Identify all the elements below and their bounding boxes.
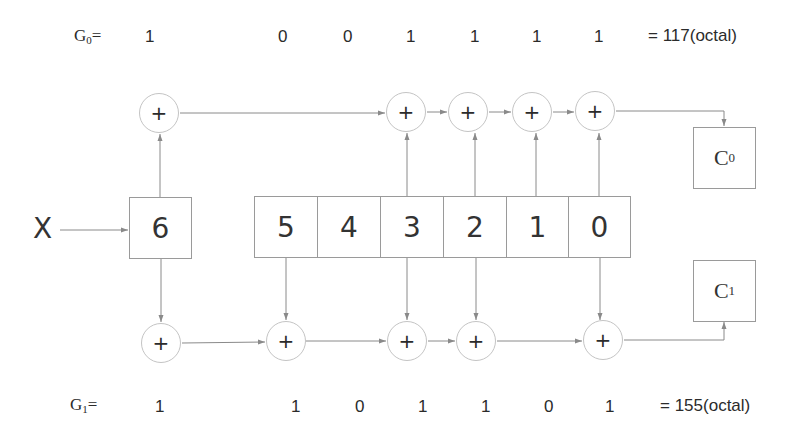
g0-bit: 1 — [406, 28, 415, 45]
xor-adder-top: + — [575, 91, 615, 131]
g1-bit: 0 — [355, 398, 364, 415]
g1-bit: 1 — [291, 398, 300, 415]
output-c0-box: C0 — [693, 127, 756, 189]
g1-octal-value: = 155(octal) — [660, 397, 750, 414]
current-input-stage: 6 — [129, 197, 192, 259]
g0-label: G0= — [74, 27, 101, 46]
xor-adder-top: + — [512, 92, 552, 132]
xor-adder-bottom: + — [141, 323, 181, 363]
g1-bit: 1 — [155, 398, 164, 415]
register-cell-3: 3 — [380, 196, 444, 258]
register-cell-2: 2 — [443, 196, 507, 258]
g1-bit: 0 — [544, 398, 553, 415]
register-cell-1: 1 — [506, 196, 569, 258]
xor-adder-bottom: + — [266, 321, 306, 361]
xor-adder-bottom: + — [387, 321, 427, 361]
register-cell-5: 5 — [254, 196, 318, 258]
register-cell-0: 0 — [568, 196, 631, 258]
g1-equals: = — [88, 395, 98, 414]
g1-label: G1= — [70, 396, 97, 415]
g0-octal-value: = 117(octal) — [648, 27, 737, 44]
register-cell-4: 4 — [317, 196, 381, 258]
g0-bit: 1 — [145, 28, 154, 45]
g1-name: G — [70, 395, 82, 414]
xor-adder-top: + — [386, 92, 426, 132]
g1-bit: 1 — [418, 398, 427, 415]
output-c1-name: C — [714, 278, 729, 304]
g0-bit: 0 — [343, 28, 352, 45]
g0-bit: 1 — [470, 28, 479, 45]
g0-equals: = — [92, 26, 102, 45]
xor-adder-bottom: + — [583, 320, 623, 360]
g0-bit: 1 — [594, 28, 603, 45]
output-c0-name: C — [714, 145, 729, 171]
output-c0-subscript: 0 — [729, 150, 736, 166]
g1-bit: 1 — [605, 398, 614, 415]
g0-bit: 0 — [278, 28, 287, 45]
xor-adder-top: + — [139, 93, 179, 133]
xor-adder-top: + — [448, 92, 488, 132]
input-x-label: X — [33, 215, 52, 243]
g0-bit: 1 — [532, 28, 541, 45]
g1-bit: 1 — [481, 398, 490, 415]
output-c1-subscript: 1 — [729, 283, 736, 299]
output-c1-box: C1 — [693, 260, 756, 322]
xor-adder-bottom: + — [456, 321, 496, 361]
g0-name: G — [74, 26, 86, 45]
